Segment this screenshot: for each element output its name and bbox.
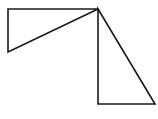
diagram-canvas (0, 0, 158, 119)
triangles-figure (0, 0, 158, 119)
upper-left-triangle (8, 9, 98, 52)
lower-right-triangle (98, 9, 155, 104)
